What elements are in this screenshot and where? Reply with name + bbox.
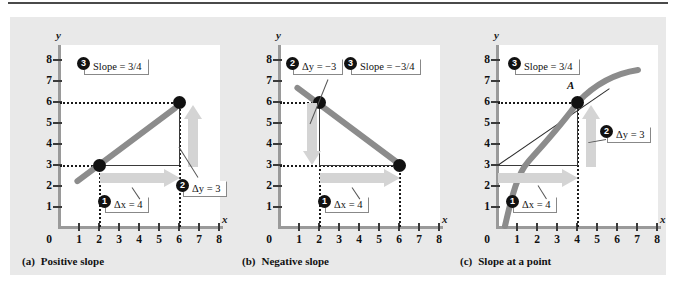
x-ticklabel-5-c: 5 — [590, 233, 604, 245]
callout-slope-text-c: Slope = 3/4 — [524, 61, 573, 72]
x-ticklabel-4-c: 4 — [570, 233, 584, 245]
figure-slope-diagram: y x 8 7 6 5 4 3 2 1 0 — [0, 0, 676, 282]
y-axis-label-b: y — [276, 29, 281, 41]
y-ticklabel-2-c: 2 — [476, 179, 490, 191]
caption-panel-c: (c)Slope at a point — [460, 255, 551, 267]
y-ticklabel-5-c: 5 — [476, 116, 490, 128]
y-ticklabel-8-a: 8 — [38, 53, 52, 65]
callout-deltay-text-c: Δy = 3 — [616, 129, 644, 140]
callout-badge-1-b: 1 — [318, 195, 331, 208]
x-tick-3-a — [118, 223, 120, 231]
callout-badge-2-a: 2 — [176, 179, 189, 192]
callout-badge-2-c: 2 — [600, 125, 613, 138]
y-ticklabel-4-a: 4 — [38, 137, 52, 149]
y-tick-1-b — [273, 206, 282, 208]
y-ticklabel-1-a: 1 — [38, 200, 52, 212]
panel-positive-slope: y x 8 7 6 5 4 3 2 1 0 — [12, 17, 230, 275]
x-ticklabel-7-c: 7 — [630, 233, 644, 245]
y-ticklabel-5-b: 5 — [258, 116, 272, 128]
callout-badge-1-c: 1 — [506, 195, 519, 208]
y-tick-4-a — [53, 143, 62, 145]
y-ticklabel-7-a: 7 — [38, 74, 52, 86]
caption-letter-b: (b) — [242, 255, 255, 267]
rise-segment-a — [179, 102, 180, 165]
x-ticklabel-8-a: 8 — [212, 233, 226, 245]
x-axis-label-b: x — [442, 213, 448, 225]
x-ticklabel-1-c: 1 — [510, 233, 524, 245]
x-ticklabel-2-a: 2 — [92, 233, 106, 245]
y-axis-a — [58, 45, 61, 229]
x-ticklabel-7-b: 7 — [412, 233, 426, 245]
y-ticklabel-3-b: 3 — [258, 158, 272, 170]
x-ticklabel-5-a: 5 — [152, 233, 166, 245]
x-tick-3-b — [338, 223, 340, 231]
callout-slope-text-a: Slope = 3/4 — [93, 61, 142, 72]
delta-x-arrow-a — [100, 169, 180, 187]
x-ticklabel-2-b: 2 — [312, 233, 326, 245]
caption-letter-a: (a) — [22, 255, 35, 267]
x-ticklabel-3-c: 3 — [550, 233, 564, 245]
y-tick-8-a — [53, 59, 62, 61]
guide-h-y6-a — [60, 102, 180, 104]
delta-y-arrow-b — [303, 103, 321, 165]
y-tick-2-b — [273, 185, 282, 187]
x-tick-8-b — [438, 223, 440, 231]
callout-deltax-text-b: Δx = 4 — [334, 199, 362, 210]
caption-text-a: Positive slope — [41, 255, 104, 267]
y-tick-1-a — [53, 206, 62, 208]
caption-panel-b: (b)Negative slope — [242, 255, 329, 267]
y-tick-5-b — [273, 122, 282, 124]
x-ticklabel-6-c: 6 — [610, 233, 624, 245]
callout-deltax-c: Δx = 4 — [513, 197, 557, 213]
panel-negative-slope: y x 8 7 6 5 4 3 2 1 0 — [232, 17, 450, 275]
y-ticklabel-2-b: 2 — [258, 179, 272, 191]
x-tick-4-a — [138, 223, 140, 231]
y-ticklabel-1-c: 1 — [476, 200, 490, 212]
x-tick-1-a — [78, 223, 80, 231]
y-tick-7-b — [273, 80, 282, 82]
x-tick-5-b — [378, 223, 380, 231]
callout-deltay-text-b: Δy = −3 — [302, 61, 336, 72]
x-ticklabel-8-c: 8 — [650, 233, 664, 245]
callout-slope-a: Slope = 3/4 — [84, 59, 149, 75]
y-ticklabel-7-c: 7 — [476, 74, 490, 86]
x-tick-5-a — [158, 223, 160, 231]
y-ticklabel-6-c: 6 — [476, 95, 490, 107]
y-ticklabel-3-a: 3 — [38, 158, 52, 170]
callout-deltay-text-a: Δy = 3 — [192, 183, 220, 194]
y-ticklabel-4-b: 4 — [258, 137, 272, 149]
delta-x-arrow-b — [320, 169, 400, 187]
y-ticklabel-5-a: 5 — [38, 116, 52, 128]
x-axis-label-a: x — [222, 213, 228, 225]
x-ticklabel-3-b: 3 — [332, 233, 346, 245]
y-tick-5-a — [53, 122, 62, 124]
x-tick-8-a — [218, 223, 220, 231]
run-segment-b — [319, 165, 399, 166]
callout-deltax-text-c: Δx = 4 — [522, 199, 550, 210]
callout-slope-c: Slope = 3/4 — [515, 59, 580, 75]
y-ticklabel-8-b: 8 — [258, 53, 272, 65]
y-ticklabel-4-c: 4 — [476, 137, 490, 149]
x-ticklabel-3-a: 3 — [112, 233, 126, 245]
y-ticklabel-3-c: 3 — [476, 158, 490, 170]
figure-body: y x 8 7 6 5 4 3 2 1 0 — [10, 17, 666, 275]
x-tick-7-a — [198, 223, 200, 231]
y-tick-7-a — [53, 80, 62, 82]
callout-badge-3-c: 3 — [508, 57, 521, 70]
callout-deltay-c: Δy = 3 — [607, 127, 651, 143]
caption-panel-a: (a)Positive slope — [22, 255, 104, 267]
caption-text-b: Negative slope — [261, 255, 329, 267]
y-axis-label-c: y — [494, 29, 499, 41]
x-tick-1-b — [298, 223, 300, 231]
y-ticklabel-2-a: 2 — [38, 179, 52, 191]
callout-badge-3-a: 3 — [77, 57, 90, 70]
panel-slope-at-point: y x 8 7 6 5 4 3 2 1 0 — [450, 17, 668, 275]
y-axis-label-a: y — [56, 29, 61, 41]
y-ticklabel-6-a: 6 — [38, 95, 52, 107]
origin-label-a: 0 — [38, 233, 52, 245]
x-tick-4-b — [358, 223, 360, 231]
callout-slope-b: Slope = −3/4 — [351, 59, 421, 75]
x-ticklabel-8-b: 8 — [432, 233, 446, 245]
x-ticklabel-1-a: 1 — [72, 233, 86, 245]
y-tick-2-a — [53, 185, 62, 187]
